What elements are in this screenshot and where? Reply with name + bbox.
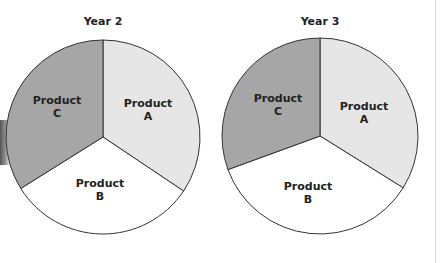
pie-chart-year-3: Year 3 ProductA ProductB ProductC [222,15,418,234]
pie-charts: Year 2 ProductA ProductB ProductC Year 3… [0,0,441,263]
pie-slices [6,40,200,234]
pie-slices [222,38,418,234]
chart-title: Year 3 [300,15,340,28]
pie-chart-year-2: Year 2 ProductA ProductB ProductC [6,15,200,234]
chart-title: Year 2 [83,15,123,28]
